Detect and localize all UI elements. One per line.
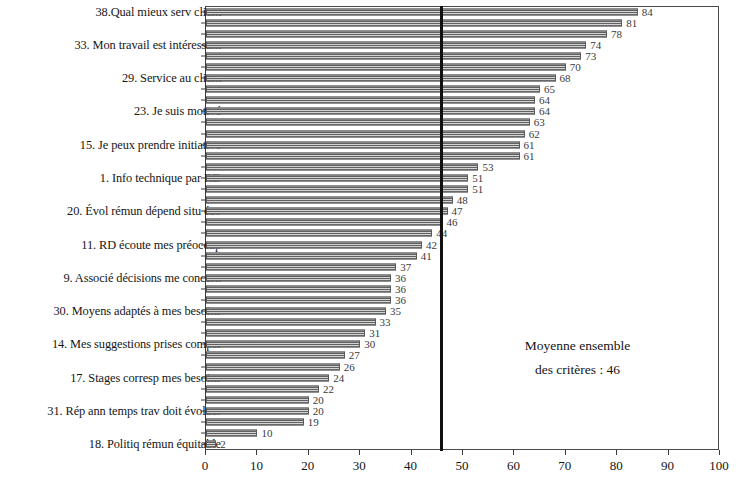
table-row: 64 <box>0 95 742 106</box>
bar-value-label: 51 <box>469 183 483 195</box>
mean-annotation: Moyenne ensemble des critères : 46 <box>470 334 685 381</box>
bar <box>206 252 417 259</box>
bar-value-label: 73 <box>582 50 596 62</box>
x-tick-mark <box>256 450 257 455</box>
bar-value-label: 81 <box>623 17 637 29</box>
bar <box>206 441 216 448</box>
bar-rows-container: 38.Qual mieux serv client84817833. Mon t… <box>0 6 742 450</box>
bar <box>206 97 535 104</box>
table-row: 18. Politiq rémun équitable2 <box>0 439 742 450</box>
x-tick-label: 20 <box>301 458 314 474</box>
bar <box>206 186 468 193</box>
bar <box>206 407 309 414</box>
x-tick-label: 80 <box>610 458 623 474</box>
x-tick-label: 10 <box>250 458 263 474</box>
bar <box>206 396 309 403</box>
x-tick-label: 50 <box>456 458 469 474</box>
bar-value-label: 41 <box>418 250 432 262</box>
bar-value-label: 78 <box>608 28 622 40</box>
table-row: 9. Associé décisions me concern36 <box>0 272 742 283</box>
mean-annotation-line1: Moyenne ensemble <box>470 334 685 358</box>
bar-value-label: 84 <box>639 6 653 18</box>
table-row: 33 <box>0 317 742 328</box>
bar <box>206 30 607 37</box>
x-tick-mark <box>205 450 206 455</box>
bar <box>206 86 540 93</box>
bar <box>206 330 365 337</box>
x-axis: 0102030405060708090100 <box>205 450 719 480</box>
bar <box>206 341 360 348</box>
x-tick-label: 40 <box>404 458 417 474</box>
x-tick-mark <box>359 450 360 455</box>
horizontal-bar-chart: 38.Qual mieux serv client84817833. Mon t… <box>0 0 742 484</box>
x-tick-label: 100 <box>709 458 729 474</box>
x-tick-mark <box>308 450 309 455</box>
table-row: 61 <box>0 150 742 161</box>
table-row: 65 <box>0 84 742 95</box>
bar <box>206 141 520 148</box>
table-row: 19 <box>0 416 742 427</box>
bar <box>206 197 453 204</box>
bar <box>206 119 530 126</box>
mean-annotation-line2: des critères : 46 <box>470 358 685 382</box>
bar-value-label: 10 <box>258 427 272 439</box>
table-row: 63 <box>0 117 742 128</box>
bar <box>206 430 257 437</box>
x-tick-mark <box>616 450 617 455</box>
bar <box>206 263 396 270</box>
bar <box>206 296 391 303</box>
bar <box>206 241 422 248</box>
x-tick-mark <box>565 450 566 455</box>
x-tick-label: 30 <box>353 458 366 474</box>
table-row: 81 <box>0 17 742 28</box>
bar <box>206 419 304 426</box>
bar <box>206 163 478 170</box>
bar <box>206 285 391 292</box>
table-row: 70 <box>0 61 742 72</box>
bar <box>206 308 386 315</box>
x-tick-label: 60 <box>507 458 520 474</box>
bar-value-label: 30 <box>361 338 375 350</box>
bar <box>206 52 581 59</box>
bar <box>206 75 556 82</box>
x-tick-mark <box>513 450 514 455</box>
x-tick-mark <box>462 450 463 455</box>
table-row: 20. Évol rémun dépend situ éco47 <box>0 206 742 217</box>
x-tick-mark <box>411 450 412 455</box>
table-row: 31. Rép ann temps trav doit évoluer20 <box>0 405 742 416</box>
table-row: 23. Je suis motivé64 <box>0 106 742 117</box>
bar-value-label: 61 <box>521 150 535 162</box>
x-tick-mark <box>719 450 720 455</box>
table-row: 15. Je peux prendre initiative61 <box>0 139 742 150</box>
table-row: 33. Mon travail est intéressant74 <box>0 39 742 50</box>
table-row: 73 <box>0 50 742 61</box>
table-row: 11. RD écoute mes préoccup42 <box>0 239 742 250</box>
bar <box>206 130 525 137</box>
bar <box>206 108 535 115</box>
bar <box>206 374 329 381</box>
table-row: 36 <box>0 283 742 294</box>
bar-value-label: 19 <box>305 416 319 428</box>
bar <box>206 64 566 71</box>
table-row: 29. Service au client68 <box>0 73 742 84</box>
bar <box>206 352 345 359</box>
bar <box>206 230 432 237</box>
bar <box>206 152 520 159</box>
x-tick-label: 70 <box>558 458 571 474</box>
bar-value-label: 68 <box>557 72 571 84</box>
bar <box>206 41 586 48</box>
bar-value-label: 2 <box>217 438 226 450</box>
bar <box>206 219 442 226</box>
table-row: 46 <box>0 217 742 228</box>
table-row: 41 <box>0 250 742 261</box>
bar <box>206 385 319 392</box>
bar <box>206 19 622 26</box>
x-tick-label: 0 <box>202 458 209 474</box>
table-row: 1. Info technique par RD51 <box>0 172 742 183</box>
x-tick-label: 90 <box>661 458 674 474</box>
bar <box>206 363 340 370</box>
table-row: 22 <box>0 383 742 394</box>
bar <box>206 174 468 181</box>
x-tick-mark <box>668 450 669 455</box>
table-row: 30. Moyens adaptés à mes besoins35 <box>0 306 742 317</box>
